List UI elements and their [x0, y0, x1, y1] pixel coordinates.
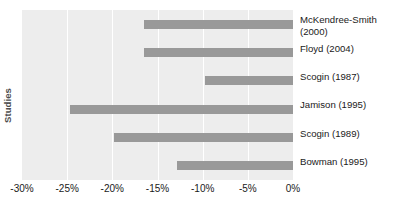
- gridline: [112, 10, 113, 180]
- bar: [205, 76, 294, 85]
- x-tick-label: -30%: [10, 183, 33, 194]
- x-tick-label: 0%: [286, 183, 300, 194]
- category-label: Floyd (2004): [300, 43, 398, 55]
- horizontal-bar-chart: Studies -30%-25%-20%-15%-10%-5%0% McKend…: [0, 0, 398, 210]
- gridline: [158, 10, 159, 180]
- category-label: Scogin (1987): [300, 71, 398, 83]
- gridline: [203, 10, 204, 180]
- x-tick-label: -10%: [191, 183, 214, 194]
- y-axis-title-text: Studies: [2, 87, 13, 122]
- x-tick-label: -25%: [56, 183, 79, 194]
- category-label: Jamison (1995): [300, 99, 398, 111]
- bar: [144, 20, 293, 29]
- bar: [70, 105, 293, 114]
- category-label: Bowman (1995): [300, 156, 398, 168]
- gridline: [67, 10, 68, 180]
- x-tick-label: -5%: [239, 183, 257, 194]
- plot-area: [22, 10, 293, 180]
- category-labels: McKendree-Smith (2000)Floyd (2004)Scogin…: [300, 10, 398, 180]
- x-axis-tick-labels: -30%-25%-20%-15%-10%-5%0%: [0, 183, 398, 199]
- y-axis-title: Studies: [0, 70, 14, 140]
- bar: [177, 161, 294, 170]
- x-tick-label: -15%: [146, 183, 169, 194]
- bar: [144, 48, 293, 57]
- gridline: [248, 10, 249, 180]
- bar: [114, 133, 293, 142]
- x-tick-label: -20%: [101, 183, 124, 194]
- category-label: Scogin (1989): [300, 128, 398, 140]
- category-label: McKendree-Smith (2000): [300, 14, 398, 37]
